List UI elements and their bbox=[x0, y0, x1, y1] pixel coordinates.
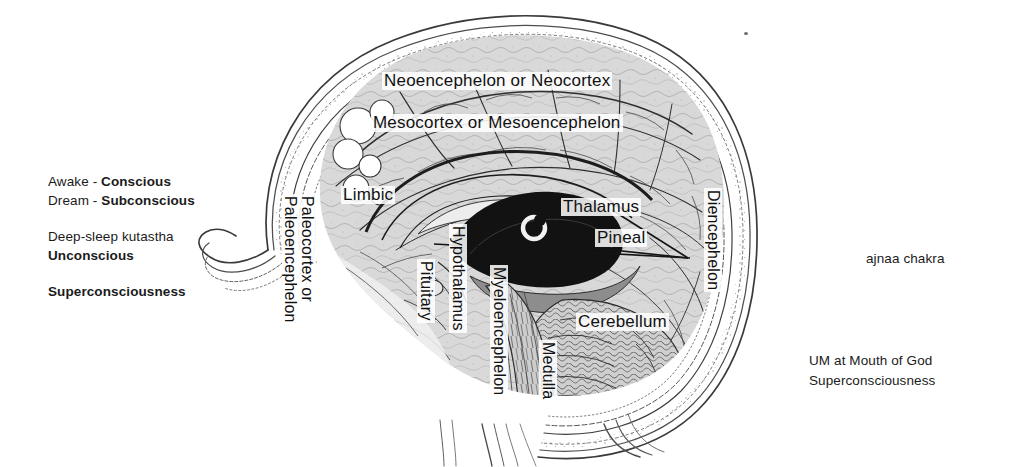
subconscious-label: Subconscious bbox=[101, 193, 194, 208]
annotation-dream-subconscious: Dream - Subconscious bbox=[48, 191, 195, 210]
screenshot-canvas: Awake - Conscious Dream - Subconscious D… bbox=[0, 0, 1009, 467]
unconscious-label: Unconscious bbox=[48, 246, 195, 265]
annotation-awake-conscious: Awake - Conscious bbox=[48, 172, 195, 191]
label-neoencephelon: Neoencephelon or Neocortex bbox=[382, 72, 612, 90]
label-paleocortex: Paleocortex or Paleoencephelon bbox=[282, 194, 316, 325]
label-mesocortex: Mesocortex or Mesoencephelon bbox=[371, 114, 623, 132]
neck-outline bbox=[440, 414, 664, 466]
label-pineal: Pineal bbox=[595, 229, 647, 247]
label-hypothalamus: Hypothalamus bbox=[449, 224, 467, 333]
mouth-of-god-annotation: UM at Mouth of God Superconsciousness bbox=[809, 351, 935, 391]
label-pituitary: Pituitary bbox=[417, 259, 435, 323]
label-paleoencephelon-line2: Paleoencephelon bbox=[282, 196, 299, 323]
label-cerebellum: Cerebellum bbox=[576, 313, 669, 331]
scan-speck bbox=[744, 32, 748, 35]
callout-leader-lines bbox=[434, 210, 690, 258]
consciousness-states-annotations: Awake - Conscious Dream - Subconscious D… bbox=[48, 172, 195, 301]
deep-sleep-kutastha-label: Deep-sleep kutastha bbox=[48, 227, 195, 246]
um-mouth-of-god-label: UM at Mouth of God bbox=[809, 351, 935, 371]
ajnaa-chakra-annotation: ajnaa chakra bbox=[866, 249, 945, 268]
awake-prefix: Awake - bbox=[48, 174, 101, 189]
label-thalamus: Thalamus bbox=[561, 198, 641, 216]
label-paleocortex-line1: Paleocortex or bbox=[299, 196, 316, 323]
annotation-group-waking: Awake - Conscious Dream - Subconscious bbox=[48, 172, 195, 210]
annotation-group-deep-sleep: Deep-sleep kutastha Unconscious bbox=[48, 227, 195, 265]
label-myeloencephelon: Myeloencephelon bbox=[490, 265, 508, 397]
annotation-group-super: Superconsciousness bbox=[48, 282, 195, 301]
dream-prefix: Dream - bbox=[48, 193, 101, 208]
superconsciousness-right-label: Superconsciousness bbox=[809, 371, 935, 391]
conscious-label: Conscious bbox=[101, 174, 171, 189]
label-medulla: Medulla bbox=[539, 340, 557, 401]
label-limbic: Limbic bbox=[341, 186, 395, 204]
superconsciousness-label: Superconsciousness bbox=[48, 282, 195, 301]
label-diencephelon: Diencephelon bbox=[704, 188, 722, 292]
